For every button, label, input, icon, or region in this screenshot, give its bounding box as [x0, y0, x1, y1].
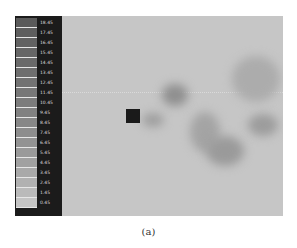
vortex-4: [206, 136, 244, 166]
colorbar: 18.4517.4516.4515.4514.4513.4512.4511.45…: [15, 16, 62, 216]
colorbar-swatch: [16, 78, 37, 88]
colorbar-label: 3.45: [38, 168, 62, 178]
colorbar-label: 1.45: [38, 188, 62, 198]
colorbar-label: 7.45: [38, 128, 62, 138]
vortex-6: [248, 114, 278, 136]
colorbar-swatch: [16, 158, 37, 168]
colorbar-label: 15.45: [38, 48, 62, 58]
colorbar-swatch: [16, 28, 37, 38]
colorbar-label: 13.45: [38, 68, 62, 78]
colorbar-swatch: [16, 58, 37, 68]
colorbar-swatch: [16, 168, 37, 178]
vortex-2: [162, 84, 188, 106]
colorbar-label: 14.45: [38, 58, 62, 68]
colorbar-labels: 18.4517.4516.4515.4514.4513.4512.4511.45…: [38, 18, 62, 208]
colorbar-swatch: [16, 88, 37, 98]
colorbar-label: 12.45: [38, 78, 62, 88]
flow-field: [62, 16, 283, 216]
colorbar-swatch: [16, 188, 37, 198]
colorbar-swatch: [16, 178, 37, 188]
colorbar-swatch: [16, 68, 37, 78]
colorbar-swatch: [16, 38, 37, 48]
figure-caption: (a): [0, 226, 297, 237]
colorbar-label: 6.45: [38, 138, 62, 148]
colorbar-label: 2.45: [38, 178, 62, 188]
colorbar-swatch: [16, 18, 37, 28]
colorbar-label: 17.45: [38, 28, 62, 38]
colorbar-label: 18.45: [38, 18, 62, 28]
colorbar-swatch: [16, 98, 37, 108]
colorbar-swatch: [16, 48, 37, 58]
colorbar-swatch: [16, 198, 37, 208]
vortex-5: [232, 56, 280, 102]
colorbar-label: 16.45: [38, 38, 62, 48]
colorbar-label: 0.45: [38, 198, 62, 208]
colorbar-swatch: [16, 148, 37, 158]
colorbar-label: 8.45: [38, 118, 62, 128]
simulation-figure: 18.4517.4516.4515.4514.4513.4512.4511.45…: [15, 16, 283, 216]
colorbar-swatch: [16, 118, 37, 128]
obstacle-square: [126, 109, 140, 123]
colorbar-swatch: [16, 108, 37, 118]
vortex-1: [142, 113, 164, 127]
colorbar-label: 4.45: [38, 158, 62, 168]
colorbar-swatch: [16, 128, 37, 138]
colorbar-swatches: [16, 18, 37, 208]
colorbar-swatch: [16, 138, 37, 148]
colorbar-label: 5.45: [38, 148, 62, 158]
colorbar-label: 9.45: [38, 108, 62, 118]
colorbar-label: 10.45: [38, 98, 62, 108]
colorbar-label: 11.45: [38, 88, 62, 98]
